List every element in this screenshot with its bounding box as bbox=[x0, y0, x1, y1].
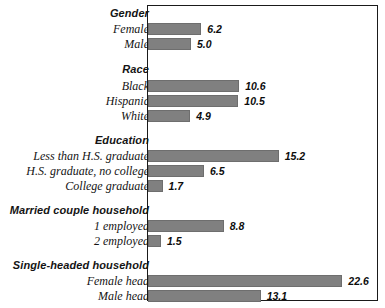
category-label: 1 employed bbox=[0, 219, 149, 234]
bar bbox=[148, 38, 191, 50]
bar-group: 6.5 bbox=[148, 165, 225, 178]
bar bbox=[148, 180, 163, 192]
category-label: Less than H.S. graduate bbox=[0, 149, 149, 164]
bar-group: 10.5 bbox=[148, 95, 265, 108]
group-heading: Married couple household bbox=[0, 203, 149, 218]
bar-value-label: 5.0 bbox=[197, 38, 212, 50]
bar-value-label: 10.6 bbox=[245, 80, 265, 92]
bar bbox=[148, 150, 279, 162]
bar bbox=[148, 165, 204, 177]
chart-group-row: Race bbox=[0, 62, 385, 77]
category-label: College graduate bbox=[0, 179, 149, 194]
bar-group: 6.2 bbox=[148, 23, 222, 36]
bar-value-label: 1.7 bbox=[169, 180, 184, 192]
group-heading: Single-headed household bbox=[0, 258, 149, 273]
category-label: Hispanic bbox=[0, 94, 149, 109]
bar bbox=[148, 275, 342, 287]
chart-group-row: Single-headed household bbox=[0, 258, 385, 273]
chart-bar-row: College graduate1.7 bbox=[0, 179, 385, 194]
bar-chart: GenderFemale6.2Male5.0RaceBlack10.6Hispa… bbox=[0, 0, 385, 308]
bar-group: 10.6 bbox=[148, 80, 266, 93]
category-label: Female head bbox=[0, 274, 149, 289]
group-heading: Race bbox=[0, 62, 149, 77]
chart-bar-row: 1 employed8.8 bbox=[0, 219, 385, 234]
category-label: White bbox=[0, 109, 149, 124]
category-label: 2 employed bbox=[0, 234, 149, 249]
bar bbox=[148, 95, 238, 107]
bar-group: 1.7 bbox=[148, 180, 183, 193]
chart-bar-row: Female head22.6 bbox=[0, 274, 385, 289]
bar bbox=[148, 290, 261, 302]
category-label: Black bbox=[0, 79, 149, 94]
bar-group: 22.6 bbox=[148, 275, 369, 288]
bar-value-label: 6.5 bbox=[210, 165, 225, 177]
chart-bar-row: Hispanic10.5 bbox=[0, 94, 385, 109]
bar-group: 1.5 bbox=[148, 235, 182, 248]
bar-value-label: 1.5 bbox=[167, 235, 182, 247]
chart-bar-row: H.S. graduate, no college6.5 bbox=[0, 164, 385, 179]
category-label: Male head bbox=[0, 289, 149, 304]
chart-bar-row: Male head13.1 bbox=[0, 289, 385, 304]
bar bbox=[148, 80, 239, 92]
chart-bar-row: Male5.0 bbox=[0, 37, 385, 52]
bar-group: 8.8 bbox=[148, 220, 244, 233]
chart-group-row: Married couple household bbox=[0, 203, 385, 218]
bar-value-label: 4.9 bbox=[196, 110, 211, 122]
bar bbox=[148, 220, 224, 232]
bar bbox=[148, 23, 201, 35]
chart-bar-row: White4.9 bbox=[0, 109, 385, 124]
category-label: Male bbox=[0, 37, 149, 52]
chart-bar-row: 2 employed1.5 bbox=[0, 234, 385, 249]
bar-value-label: 13.1 bbox=[267, 290, 287, 302]
bar-value-label: 8.8 bbox=[230, 220, 245, 232]
category-label: Female bbox=[0, 22, 149, 37]
bar-group: 13.1 bbox=[148, 290, 287, 303]
bar-group: 4.9 bbox=[148, 110, 211, 123]
chart-bar-row: Less than H.S. graduate15.2 bbox=[0, 149, 385, 164]
group-heading: Gender bbox=[0, 6, 149, 21]
bar-value-label: 6.2 bbox=[207, 23, 222, 35]
bar bbox=[148, 110, 190, 122]
group-heading: Education bbox=[0, 133, 149, 148]
bar-value-label: 22.6 bbox=[348, 275, 368, 287]
chart-group-row: Gender bbox=[0, 6, 385, 21]
chart-bar-row: Black10.6 bbox=[0, 79, 385, 94]
bar-value-label: 10.5 bbox=[244, 95, 264, 107]
chart-bar-row: Female6.2 bbox=[0, 22, 385, 37]
bar-group: 5.0 bbox=[148, 38, 212, 51]
bar-value-label: 15.2 bbox=[285, 150, 305, 162]
bar bbox=[148, 235, 161, 247]
bar-group: 15.2 bbox=[148, 150, 305, 163]
chart-group-row: Education bbox=[0, 133, 385, 148]
category-label: H.S. graduate, no college bbox=[0, 164, 149, 179]
